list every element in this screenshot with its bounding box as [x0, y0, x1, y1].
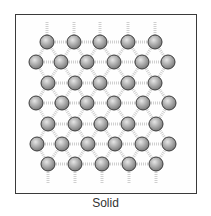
- atom: [30, 137, 44, 151]
- atom: [121, 76, 135, 90]
- atom: [80, 96, 94, 110]
- atom: [41, 117, 55, 131]
- atom: [40, 35, 54, 49]
- crystal-lattice: [0, 0, 211, 216]
- atom: [122, 157, 136, 171]
- atom: [107, 96, 121, 110]
- atom: [162, 96, 176, 110]
- atom: [54, 55, 68, 69]
- atom: [55, 96, 69, 110]
- atom: [148, 76, 162, 90]
- atom: [80, 55, 94, 69]
- diagram-caption: Solid: [0, 196, 211, 210]
- atom: [41, 76, 55, 90]
- atom: [136, 96, 150, 110]
- atom: [29, 55, 43, 69]
- atom: [162, 137, 176, 151]
- atom: [55, 137, 69, 151]
- atom: [149, 117, 163, 131]
- atom: [41, 157, 55, 171]
- atom: [68, 76, 82, 90]
- atom: [121, 35, 135, 49]
- atom: [93, 76, 107, 90]
- atom: [135, 137, 149, 151]
- atom: [107, 55, 121, 69]
- atom: [161, 55, 175, 69]
- atom: [95, 157, 109, 171]
- atom: [135, 55, 149, 69]
- atom: [68, 157, 82, 171]
- atom: [148, 35, 162, 49]
- atom: [29, 96, 43, 110]
- atom: [67, 35, 81, 49]
- atom: [94, 117, 108, 131]
- atom: [81, 137, 95, 151]
- atom: [149, 157, 163, 171]
- atom: [121, 117, 135, 131]
- atom: [93, 35, 107, 49]
- atom: [68, 117, 82, 131]
- atom: [108, 137, 122, 151]
